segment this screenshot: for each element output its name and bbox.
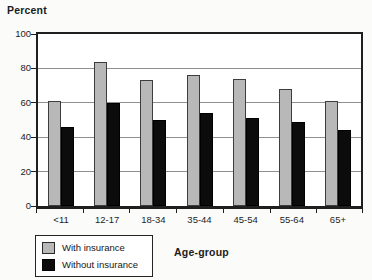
y-tick-mark-40 — [31, 137, 36, 138]
x-tick-mark-3 — [176, 209, 177, 213]
y-tick-label-100: 100 — [4, 29, 31, 39]
y-tick-mark-100 — [31, 34, 36, 35]
legend-swatch-with-insurance — [42, 242, 55, 254]
x-tick-label-<11: <11 — [38, 214, 84, 225]
bar-without-insurance-<11 — [61, 127, 74, 206]
legend: With insurance Without insurance — [35, 235, 153, 277]
bar-without-insurance-12-17 — [107, 103, 120, 206]
bar-without-insurance-65+ — [338, 130, 351, 206]
bar-with-insurance-45-54 — [233, 79, 246, 206]
x-tick-label-12-17: 12-17 — [84, 214, 130, 225]
x-tick-label-55-64: 55-64 — [269, 214, 315, 225]
x-tick-mark-2 — [129, 209, 130, 213]
bar-with-insurance-35-44 — [187, 75, 200, 206]
bar-without-insurance-55-64 — [292, 122, 305, 206]
legend-item-with-insurance: With insurance — [42, 241, 152, 255]
y-tick-mark-0 — [31, 206, 36, 207]
x-tick-label-35-44: 35-44 — [177, 214, 223, 225]
x-tick-mark-0 — [36, 209, 37, 213]
plot-area — [36, 32, 363, 209]
x-tick-label-18-34: 18-34 — [130, 214, 176, 225]
y-axis-title: Percent — [7, 4, 47, 16]
bar-without-insurance-18-34 — [153, 120, 166, 206]
legend-item-without-insurance: Without insurance — [42, 258, 152, 272]
x-tick-mark-4 — [223, 209, 224, 213]
x-tick-mark-5 — [270, 209, 271, 213]
y-tick-label-0: 0 — [4, 201, 31, 211]
y-tick-label-20: 20 — [4, 167, 31, 177]
legend-label-without-insurance: Without insurance — [62, 259, 138, 270]
bar-without-insurance-45-54 — [246, 118, 259, 206]
bar-without-insurance-35-44 — [200, 113, 213, 206]
x-tick-mark-6 — [316, 209, 317, 213]
bar-with-insurance-<11 — [48, 101, 61, 206]
legend-label-with-insurance: With insurance — [62, 242, 125, 253]
y-tick-label-80: 80 — [4, 63, 31, 73]
x-axis-title: Age-group — [174, 246, 229, 258]
x-tick-label-45-54: 45-54 — [223, 214, 269, 225]
y-tick-label-40: 40 — [4, 132, 31, 142]
y-tick-mark-20 — [31, 171, 36, 172]
x-tick-mark-7 — [362, 209, 363, 213]
y-tick-mark-60 — [31, 102, 36, 103]
bar-with-insurance-55-64 — [279, 89, 292, 206]
x-tick-label-65+: 65+ — [315, 214, 361, 225]
y-tick-mark-80 — [31, 68, 36, 69]
bar-with-insurance-18-34 — [140, 80, 153, 206]
insurance-by-age-chart: Percent 020406080100 <1112-1718-3435-444… — [0, 0, 372, 280]
legend-swatch-without-insurance — [42, 259, 55, 271]
bars-layer — [38, 34, 361, 206]
bar-with-insurance-65+ — [325, 101, 338, 206]
bar-with-insurance-12-17 — [94, 62, 107, 206]
x-tick-mark-1 — [83, 209, 84, 213]
y-tick-label-60: 60 — [4, 98, 31, 108]
